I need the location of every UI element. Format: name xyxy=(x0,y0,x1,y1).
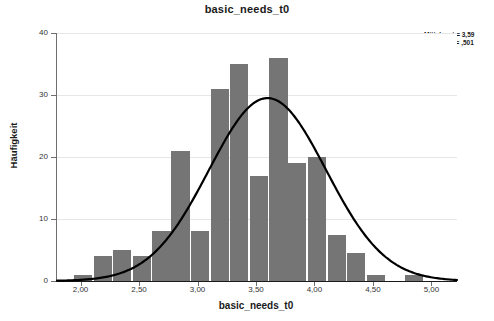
x-tick-label: 4,00 xyxy=(294,285,334,294)
x-tick-label: 3,00 xyxy=(178,285,218,294)
x-tick-label: 3,50 xyxy=(236,285,276,294)
y-tick-label: 0 xyxy=(14,276,48,285)
y-tick-label: 40 xyxy=(14,28,48,37)
y-tick-label: 20 xyxy=(14,152,48,161)
y-axis-label: Häufigkeit xyxy=(8,101,19,191)
plot-area xyxy=(56,33,457,282)
normal-distribution-curve xyxy=(57,33,457,281)
histogram-chart: basic_needs_t0 Mittelwert = 3,59 Std.-Ab… xyxy=(0,0,494,321)
chart-title: basic_needs_t0 xyxy=(0,3,494,15)
x-axis-label: basic_needs_t0 xyxy=(56,300,456,311)
y-tick-label: 10 xyxy=(14,214,48,223)
x-tick-label: 5,00 xyxy=(411,285,451,294)
x-tick-label: 2,00 xyxy=(61,285,101,294)
x-tick-label: 2,50 xyxy=(119,285,159,294)
x-tick-label: 4,50 xyxy=(353,285,393,294)
y-tick-label: 30 xyxy=(14,90,48,99)
